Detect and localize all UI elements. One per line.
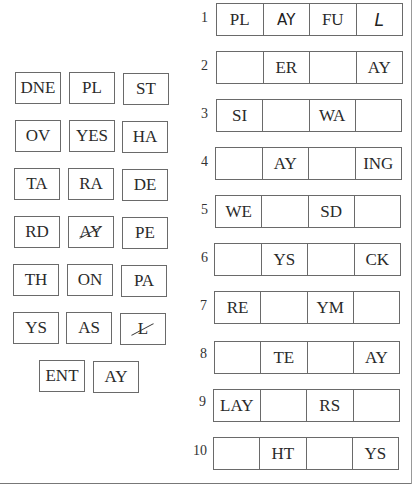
answer-cell[interactable]: RS [306,390,353,421]
row-number: 2 [188,58,208,74]
answer-cell[interactable]: HT [259,438,305,469]
tile[interactable]: RD [14,216,60,248]
answer-cell[interactable] [309,52,356,83]
tile[interactable]: RA [68,168,114,200]
answer-cell[interactable] [355,100,401,131]
answer-cell[interactable] [260,390,307,421]
answer-row: AY ING [215,147,402,180]
answer-cell[interactable] [261,196,307,227]
answer-cell[interactable]: SD [308,196,354,227]
tile[interactable]: DE [122,169,168,201]
row-number: 4 [188,154,208,170]
tile[interactable]: ON [67,264,113,296]
answer-cell[interactable] [214,438,259,469]
answer-cell[interactable] [354,196,400,227]
answer-row: YS CK [214,243,401,276]
tile[interactable]: OV [15,120,61,152]
answer-row: LAY RS [213,389,400,422]
answer-row: ER AY [216,51,403,84]
row-number: 5 [188,202,208,218]
answer-cell-handwritten[interactable]: AY [263,4,310,35]
tile[interactable]: ENT [39,360,85,392]
answer-cell[interactable] [215,342,260,373]
row-number: 9 [186,394,206,410]
answer-cell[interactable]: RE [215,292,260,323]
answer-cell[interactable] [260,292,306,323]
tile[interactable]: DNE [15,72,61,104]
answer-cell[interactable]: WA [309,100,355,131]
tile[interactable]: PA [121,265,167,297]
tile[interactable]: PL [69,72,115,104]
tile[interactable]: YS [13,312,59,344]
answer-cell[interactable] [306,438,352,469]
answer-cell[interactable] [262,100,308,131]
tile[interactable]: HA [122,121,168,153]
answer-cell[interactable]: WE [216,196,261,227]
tile[interactable]: TH [13,264,59,296]
answer-cell[interactable]: CK [354,244,401,275]
answer-cell[interactable] [353,292,399,323]
answer-row: PL AY FU L [216,3,403,36]
row-number: 1 [188,10,208,26]
answer-row: WE SD [215,195,401,228]
answer-cell[interactable]: LAY [214,390,260,421]
tile[interactable]: YES [69,120,115,152]
row-number: 7 [187,298,207,314]
answer-row: TE AY [214,341,400,374]
tile[interactable]: TA [14,168,60,200]
answer-cell[interactable]: YS [352,438,398,469]
answer-cell[interactable]: AY [356,52,403,83]
answer-cell[interactable] [307,244,354,275]
answer-cell[interactable] [217,52,263,83]
answer-cell[interactable]: AY [262,148,309,179]
answer-cell[interactable]: TE [260,342,306,373]
row-number: 6 [188,250,208,266]
tile-used[interactable]: AY [68,216,114,248]
row-number: 8 [187,346,207,362]
answer-cell[interactable]: FU [309,4,356,35]
row-number: 10 [187,443,207,459]
answer-row: SI WA [216,99,402,132]
row-number: 3 [188,106,208,122]
tile[interactable]: AS [66,312,112,344]
answer-cell[interactable] [216,148,262,179]
answer-row: HT YS [213,437,399,470]
tile-used[interactable]: L [120,313,166,345]
answer-cell-handwritten[interactable]: L [356,4,403,35]
answer-cell[interactable]: ER [263,52,310,83]
answer-cell[interactable] [215,244,261,275]
answer-cell[interactable]: SI [217,100,262,131]
page-bottom-border [0,483,412,484]
tile[interactable]: ST [123,73,169,105]
answer-cell[interactable]: PL [217,4,263,35]
answer-cell[interactable] [308,148,355,179]
answer-cell[interactable]: AY [353,342,399,373]
page-right-border [411,0,412,484]
answer-cell[interactable] [307,342,353,373]
answer-cell[interactable]: YS [261,244,308,275]
answer-row: RE YM [214,291,400,324]
answer-cell[interactable]: ING [355,148,402,179]
answer-cell[interactable] [353,390,400,421]
tile[interactable]: PE [122,217,168,249]
tile[interactable]: AY [93,361,139,393]
answer-cell[interactable]: YM [307,292,353,323]
